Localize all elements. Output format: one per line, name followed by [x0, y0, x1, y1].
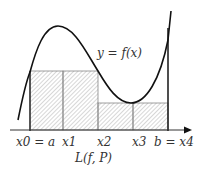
rectangle-2: [63, 71, 98, 130]
lower-sum-rectangles: [30, 71, 168, 130]
tick-label-x2: x2: [97, 135, 111, 149]
x-axis-arrow-icon: [184, 127, 192, 134]
tick-label-x4: b = x4: [154, 135, 194, 149]
rectangle-4: [133, 103, 168, 130]
lower-sum-label: L(f, P): [74, 151, 112, 165]
tick-label-x1: x1: [62, 135, 76, 149]
rectangle-3: [98, 103, 133, 130]
tick-label-x0: x0 = a: [16, 135, 55, 149]
rectangle-1: [30, 71, 63, 130]
curve-label: y = f(x): [96, 46, 142, 60]
riemann-sum-diagram: y = f(x) x0 = a x1 x2 x3 b = x4 L(f, P): [0, 0, 204, 171]
tick-label-x3: x3: [132, 135, 147, 149]
